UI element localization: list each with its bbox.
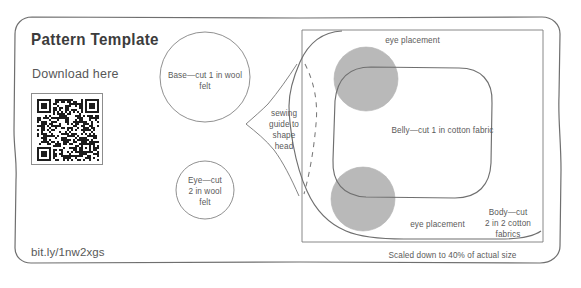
eye-piece-label: Eye—cut 2 in wool felt — [179, 175, 231, 208]
eye-placement-label-top: eye placement — [355, 35, 470, 46]
eye-placement-circle-top — [334, 47, 398, 111]
scale-note-label: Scaled down to 40% of actual size — [360, 250, 545, 261]
qr-code[interactable] — [31, 93, 103, 165]
short-url-link[interactable]: bit.ly/1nw2xgs — [31, 246, 105, 258]
base-piece-label: Base—cut 1 in wool felt — [163, 70, 247, 92]
body-piece-label: Body—cut 2 in 2 cotton fabrics — [472, 207, 544, 240]
pattern-template-screenshot: Pattern Template Download here bit.ly/1n… — [0, 0, 581, 288]
page-title: Pattern Template — [31, 30, 159, 49]
sewing-guide-label: sewing guide to shape head — [262, 108, 306, 152]
qr-code-image — [37, 99, 99, 161]
belly-piece-label: Belly—cut 1 in cotton fabric — [360, 125, 525, 136]
download-prompt-label: Download here — [32, 67, 119, 81]
